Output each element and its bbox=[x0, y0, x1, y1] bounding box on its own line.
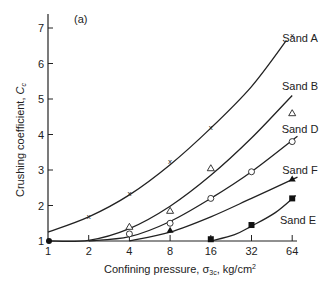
x-tick-label: 64 bbox=[286, 245, 298, 257]
y-tick-label: 1 bbox=[38, 235, 44, 247]
sand-b-marker bbox=[207, 165, 214, 171]
sand-d-marker bbox=[126, 231, 132, 237]
sand-a-marker: x bbox=[168, 157, 172, 166]
y-tick-label: 4 bbox=[38, 129, 44, 141]
sand-a-marker: x bbox=[209, 123, 213, 132]
sand-a-marker: x bbox=[127, 189, 131, 198]
sand-d-curve bbox=[89, 136, 298, 241]
sand-b-marker bbox=[289, 110, 296, 116]
y-tick-label: 5 bbox=[38, 93, 44, 105]
sand-f-label: Sand F bbox=[282, 164, 318, 176]
sand-f-curve bbox=[129, 177, 297, 241]
sand-e-label: Sand E bbox=[280, 214, 316, 226]
x-tick-label: 2 bbox=[86, 245, 92, 257]
sand-e-marker bbox=[249, 222, 255, 228]
y-tick-label: 3 bbox=[38, 164, 44, 176]
x-tick-label: 8 bbox=[167, 245, 173, 257]
x-tick-label: 16 bbox=[205, 245, 217, 257]
sand-d-marker bbox=[289, 139, 295, 145]
sand-b-label: Sand B bbox=[282, 80, 318, 92]
y-tick-label: 7 bbox=[38, 22, 44, 34]
sand-a-label: Sand A bbox=[282, 32, 318, 44]
markers: xxxxx bbox=[46, 31, 296, 244]
panel-label: (a) bbox=[74, 13, 87, 25]
labels: (a)Confining pressure, σ3c, kg/cm2Crushi… bbox=[14, 13, 318, 276]
sand-a-curve bbox=[48, 40, 286, 232]
x-axis-label: Confining pressure, σ3c, kg/cm2 bbox=[104, 263, 256, 276]
sand-e-marker bbox=[289, 195, 295, 201]
sand-f-marker bbox=[167, 227, 174, 233]
origin-point-marker bbox=[46, 238, 52, 244]
sand-d-marker bbox=[167, 220, 173, 226]
sand-a-marker: x bbox=[87, 212, 91, 221]
sand-e-marker bbox=[208, 236, 214, 242]
x-tick-label: 32 bbox=[245, 245, 257, 257]
crushing-coefficient-chart: 12345671248163264 xxxxx (a)Confining pre… bbox=[0, 0, 331, 289]
y-tick-label: 2 bbox=[38, 200, 44, 212]
sand-d-label: Sand D bbox=[282, 123, 319, 135]
sand-d-marker bbox=[208, 195, 214, 201]
y-axis-label: Crushing coefficient, Cc bbox=[14, 83, 27, 197]
y-tick-label: 6 bbox=[38, 58, 44, 70]
sand-b-marker bbox=[126, 223, 133, 229]
sand-d-marker bbox=[249, 169, 255, 175]
x-tick-label: 1 bbox=[45, 245, 51, 257]
x-tick-label: 4 bbox=[126, 245, 132, 257]
